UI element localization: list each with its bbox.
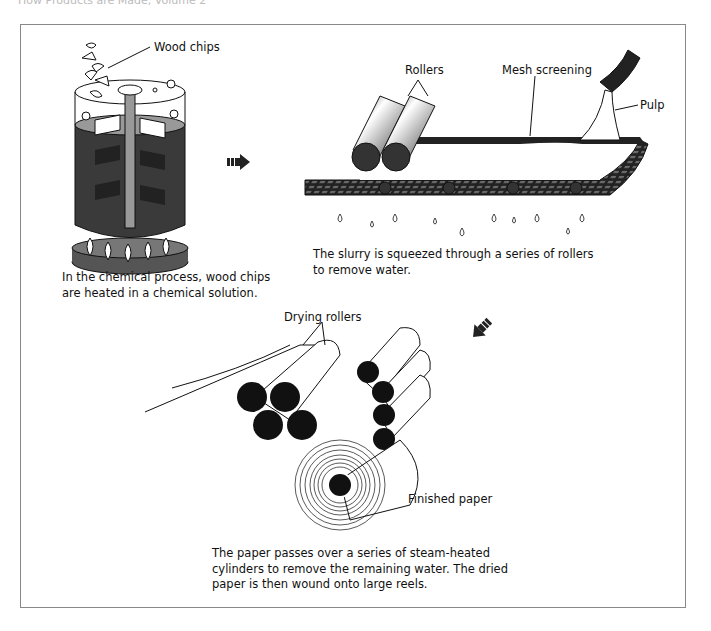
label-pulp: Pulp <box>640 98 665 113</box>
label-rollers: Rollers <box>405 63 444 78</box>
label-mesh-screening: Mesh screening <box>502 63 592 78</box>
arrow-down-left-icon <box>467 315 495 343</box>
label-finished-paper: Finished paper <box>408 492 492 507</box>
arrow-right-icon <box>227 154 250 170</box>
drying-rollers-icon <box>145 322 430 450</box>
digester-tank-icon <box>72 43 188 274</box>
label-wood-chips: Wood chips <box>154 40 220 55</box>
caption-step3: The paper passes over a series of steam-… <box>212 546 508 593</box>
caption-step1: In the chemical process, wood chips are … <box>62 270 270 301</box>
caption-step2: The slurry is squeezed through a series … <box>313 247 594 278</box>
label-drying-rollers: Drying rollers <box>284 310 362 325</box>
mesh-conveyor-icon <box>305 50 648 236</box>
paper-reel-icon <box>295 440 418 530</box>
